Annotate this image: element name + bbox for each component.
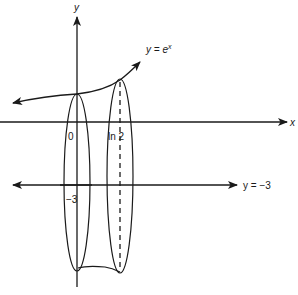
tick-label-neg3: −3	[66, 194, 78, 205]
curve-exp-label: y = ex	[145, 43, 172, 55]
tick-label-ln2: ln 2	[108, 131, 125, 142]
reflected-curve	[78, 266, 120, 272]
tick-label-origin: 0	[68, 131, 74, 142]
y-axis-label: y	[73, 2, 80, 13]
x-axis-label: x	[289, 117, 296, 128]
solid-of-revolution-diagram: y x y = −3 y = ex 0 ln 2 −3	[0, 0, 298, 295]
line-y-neg3-label: y = −3	[243, 180, 271, 191]
